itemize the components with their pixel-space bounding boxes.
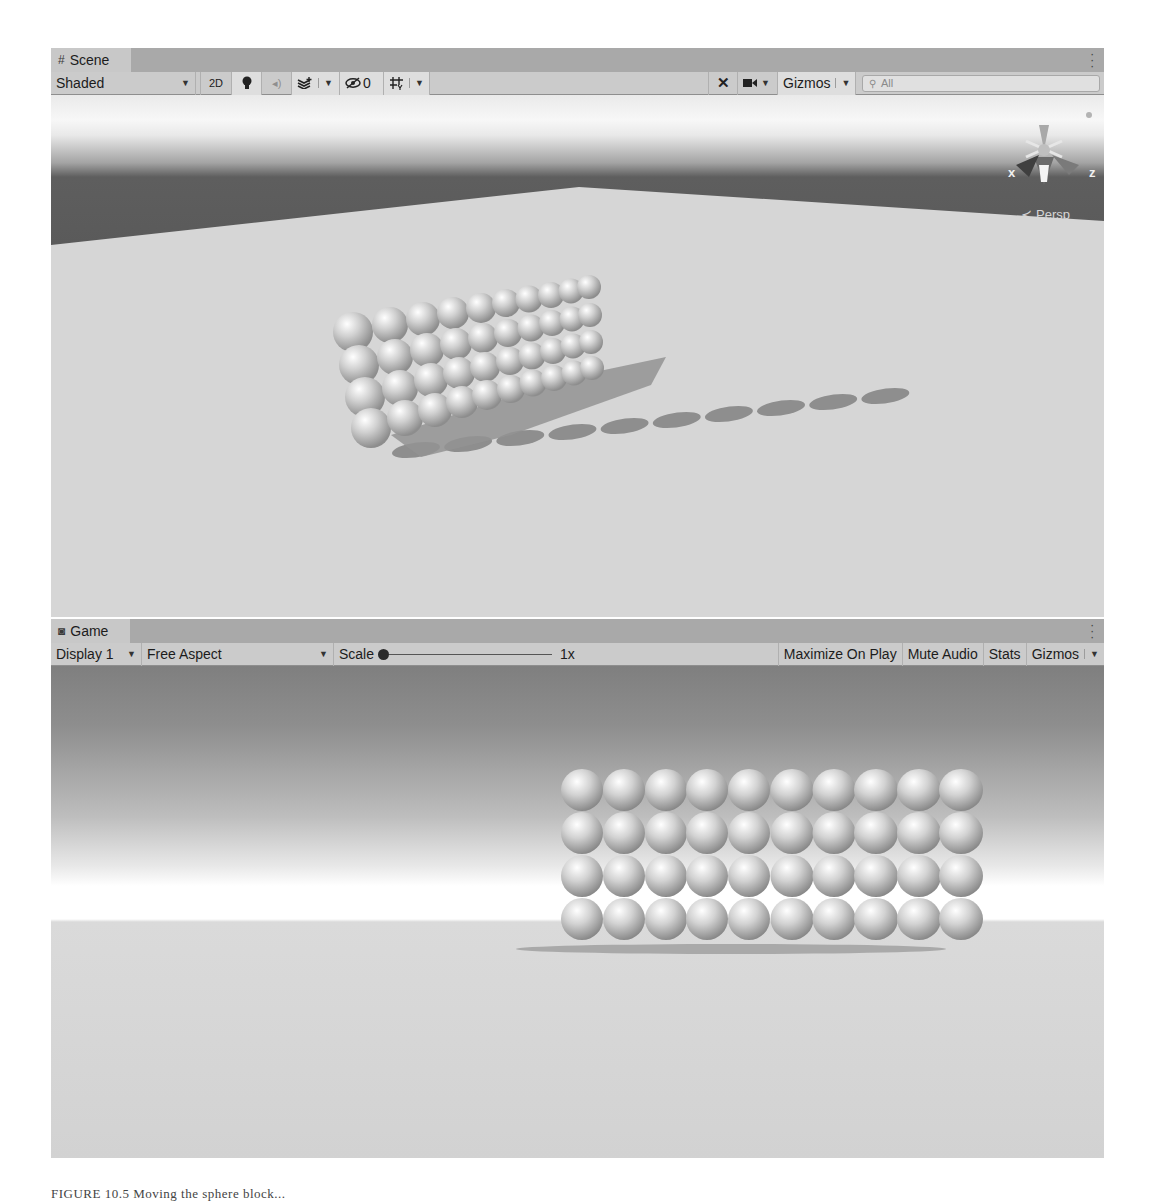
stats-label: Stats xyxy=(989,646,1021,662)
tab-scene-label: Scene xyxy=(70,48,110,72)
effects-dropdown[interactable]: ▼ xyxy=(292,72,340,95)
scene-toolbar: Shaded ▼ 2D ◂) ▼ 0 xyxy=(51,72,1104,95)
tab-scene[interactable]: # Scene xyxy=(51,48,131,72)
game-tab-bar: ◙ Game ··· xyxy=(51,619,1104,643)
game-panel: ◙ Game ··· Display 1 ▼ Free Aspect ▼ Sca… xyxy=(51,619,1104,1158)
speaker-icon: ◂) xyxy=(272,77,282,90)
scene-viewport[interactable]: x z ≺ Persp xyxy=(51,95,1104,617)
scale-label: Scale xyxy=(339,646,374,662)
mute-audio-toggle[interactable]: Mute Audio xyxy=(903,643,984,666)
figure-caption: FIGURE 10.5 Moving the sphere block... xyxy=(51,1186,286,1201)
mute-audio-label: Mute Audio xyxy=(908,646,978,662)
game-gizmos-label: Gizmos xyxy=(1032,646,1079,662)
chevron-down-icon: ▼ xyxy=(1084,649,1099,659)
game-sphere-shadow xyxy=(516,944,946,954)
chevron-down-icon: ▼ xyxy=(409,78,424,88)
scene-tab-bar: # Scene ··· xyxy=(51,48,1104,72)
display-dropdown[interactable]: Display 1 ▼ xyxy=(51,643,142,666)
game-sphere-grid xyxy=(561,769,983,940)
gizmo-axis-x-label: x xyxy=(1008,165,1015,180)
gamepad-icon: ◙ xyxy=(58,619,65,643)
lightbulb-icon xyxy=(242,76,252,90)
panel-menu-kebab-icon[interactable]: ··· xyxy=(1090,622,1094,640)
scale-slider[interactable] xyxy=(382,654,552,655)
game-viewport[interactable] xyxy=(51,666,1104,1158)
chevron-down-icon: ▼ xyxy=(318,78,333,88)
maximize-on-play-label: Maximize On Play xyxy=(784,646,897,662)
camera-settings-dropdown[interactable]: ▼ xyxy=(738,72,778,95)
game-toolbar: Display 1 ▼ Free Aspect ▼ Scale 1x Maxim… xyxy=(51,643,1104,666)
scale-slider-thumb[interactable] xyxy=(378,649,389,660)
tools-toggle-button[interactable]: ✕ xyxy=(708,72,738,95)
gizmos-dropdown[interactable]: Gizmos ▼ xyxy=(778,72,856,95)
game-render xyxy=(51,666,1104,1158)
camera-icon xyxy=(743,78,757,88)
gizmos-label: Gizmos xyxy=(783,75,830,91)
scene-ground-plane xyxy=(51,95,1104,617)
aspect-value: Free Aspect xyxy=(147,646,222,662)
projection-toggle[interactable]: ≺ Persp xyxy=(1021,207,1070,222)
scale-control: Scale 1x xyxy=(334,643,580,666)
tools-cross-icon: ✕ xyxy=(717,74,730,92)
search-icon: ⚲ xyxy=(869,78,876,89)
aspect-dropdown[interactable]: Free Aspect ▼ xyxy=(142,643,334,666)
lighting-toggle-button[interactable] xyxy=(232,72,262,95)
draw-mode-dropdown[interactable]: Shaded ▼ xyxy=(51,72,196,95)
eye-slash-icon xyxy=(345,77,361,89)
search-placeholder: All xyxy=(881,77,893,89)
stats-toggle[interactable]: Stats xyxy=(984,643,1027,666)
chevron-down-icon: ▼ xyxy=(181,78,190,88)
tab-game[interactable]: ◙ Game xyxy=(51,619,130,643)
projection-label: Persp xyxy=(1036,207,1070,222)
hidden-count: 0 xyxy=(363,75,371,91)
grid-snap-icon xyxy=(389,76,404,90)
chevron-down-icon: ▼ xyxy=(761,78,770,88)
scale-value: 1x xyxy=(560,646,575,662)
draw-mode-value: Shaded xyxy=(56,75,104,91)
scene-search-input[interactable]: ⚲ All xyxy=(862,75,1100,92)
gizmo-axis-z-label: z xyxy=(1089,165,1096,180)
toggle-2d-button[interactable]: 2D xyxy=(200,72,232,95)
display-value: Display 1 xyxy=(56,646,114,662)
scene-panel: # Scene ··· Shaded ▼ 2D ◂) ▼ xyxy=(51,48,1104,617)
tab-game-label: Game xyxy=(70,619,108,643)
hidden-objects-toggle[interactable]: 0 xyxy=(340,72,384,95)
axis-gizmo-icon xyxy=(994,95,1104,195)
audio-toggle-button[interactable]: ◂) xyxy=(262,72,292,95)
maximize-on-play-toggle[interactable]: Maximize On Play xyxy=(778,643,903,666)
chevron-down-icon: ▼ xyxy=(127,649,136,659)
panel-menu-kebab-icon[interactable]: ··· xyxy=(1090,51,1094,69)
game-gizmos-dropdown[interactable]: Gizmos ▼ xyxy=(1027,643,1104,666)
chevron-down-icon: ▼ xyxy=(319,649,328,659)
grid-hash-icon: # xyxy=(58,48,65,72)
layers-effects-icon xyxy=(297,77,313,89)
persp-arrow-icon: ≺ xyxy=(1021,207,1032,222)
chevron-down-icon: ▼ xyxy=(835,78,850,88)
toggle-2d-label: 2D xyxy=(209,77,223,89)
grid-snap-dropdown[interactable]: ▼ xyxy=(384,72,430,95)
